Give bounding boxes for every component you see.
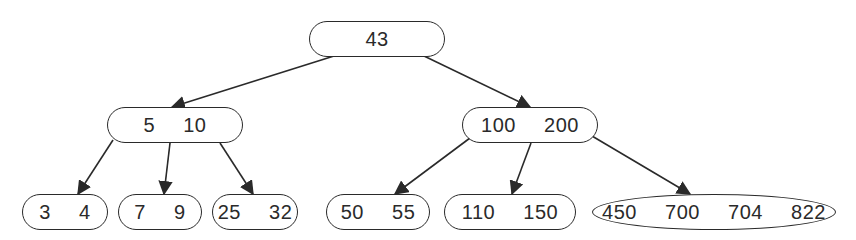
tree-node-root: 43 bbox=[309, 21, 445, 57]
node-keys: 50 55 bbox=[341, 201, 416, 224]
node-keys: 25 32 bbox=[218, 201, 293, 224]
edge-arrow-left-to-leaf-1 bbox=[78, 140, 113, 194]
tree-node-leaf-5: 110 150 bbox=[444, 194, 576, 230]
edge-arrow-left-to-leaf-2 bbox=[164, 143, 170, 194]
edge-arrow-left-to-leaf-3 bbox=[220, 143, 253, 194]
node-keys: 7 9 bbox=[134, 201, 185, 224]
node-keys: 100 200 bbox=[481, 114, 579, 137]
edge-arrow-right-to-leaf-6 bbox=[592, 136, 690, 194]
edge-arrow-right-to-leaf-5 bbox=[512, 143, 531, 194]
node-keys: 450 700 704 822 bbox=[602, 201, 826, 224]
edge-arrow-root-to-right bbox=[424, 56, 530, 107]
tree-node-leaf-2: 7 9 bbox=[118, 194, 202, 230]
node-keys: 3 4 bbox=[39, 201, 90, 224]
tree-node-right: 100 200 bbox=[462, 107, 598, 143]
tree-node-leaf-6: 450 700 704 822 bbox=[592, 194, 836, 230]
node-keys: 5 10 bbox=[144, 114, 207, 137]
edge-arrow-root-to-left bbox=[172, 56, 334, 107]
edge-arrow-right-to-leaf-4 bbox=[395, 138, 470, 194]
node-keys: 110 150 bbox=[462, 201, 558, 224]
tree-node-leaf-4: 50 55 bbox=[326, 194, 430, 230]
tree-node-leaf-3: 25 32 bbox=[212, 194, 298, 230]
node-keys: 43 bbox=[365, 28, 388, 51]
tree-node-left: 5 10 bbox=[107, 107, 243, 143]
tree-node-leaf-1: 3 4 bbox=[22, 194, 108, 230]
